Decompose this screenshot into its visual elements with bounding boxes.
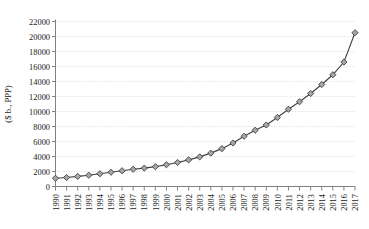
x-tick-label: 2006: [229, 194, 238, 211]
y-tick-label: 18000: [29, 48, 50, 57]
data-point-marker: [352, 30, 358, 36]
data-point-marker: [219, 146, 225, 152]
data-point-marker: [174, 159, 180, 165]
data-point-marker: [208, 150, 214, 156]
x-tick-label: 1994: [96, 193, 105, 211]
y-tick-label: 12000: [29, 93, 50, 102]
data-point-marker: [230, 140, 236, 146]
data-point-marker: [75, 173, 81, 179]
x-tick-label: 2003: [196, 194, 205, 211]
x-tick-label: 1990: [52, 194, 61, 211]
data-point-markers: [52, 30, 358, 182]
y-tick-label: 16000: [29, 63, 50, 72]
y-tick-label: 8000: [33, 123, 50, 132]
x-tick-label: 2017: [351, 194, 360, 211]
x-tick-label: 2005: [218, 194, 227, 211]
y-tick-label: 10000: [29, 108, 50, 117]
x-tick-label: 2008: [251, 194, 260, 211]
data-point-marker: [152, 164, 158, 170]
x-tick-label: 2010: [274, 194, 283, 211]
x-tick-label: 2014: [318, 193, 327, 211]
x-tick-label: 1997: [129, 194, 138, 211]
data-point-marker: [119, 168, 125, 174]
data-point-marker: [52, 175, 58, 181]
y-axis: [52, 20, 56, 187]
x-tick-label: 2000: [163, 194, 172, 211]
x-tick-label: 1999: [152, 194, 161, 211]
chart-container: 0200040006000800010000120001400016000180…: [0, 0, 369, 229]
x-tick-label: 2012: [296, 194, 305, 211]
y-tick-label: 22000: [29, 18, 50, 27]
x-tick-label: 1995: [107, 194, 116, 211]
x-tick-label: 1996: [118, 194, 127, 211]
y-tick-label: 0: [46, 183, 50, 192]
data-point-marker: [163, 162, 169, 168]
x-tick-label: 2007: [240, 194, 249, 211]
x-tick-label: 2002: [185, 194, 194, 211]
line-chart: 0200040006000800010000120001400016000180…: [0, 0, 369, 229]
x-tick-label: 1991: [63, 194, 72, 211]
y-tick-labels: 0200040006000800010000120001400016000180…: [29, 18, 50, 192]
x-tick-label: 2016: [340, 194, 349, 211]
data-point-marker: [197, 154, 203, 160]
data-point-marker: [86, 172, 92, 178]
y-tick-label: 6000: [33, 138, 50, 147]
data-point-marker: [241, 133, 247, 139]
data-point-marker: [108, 169, 114, 175]
x-tick-label: 1998: [140, 194, 149, 211]
x-tick-label: 1992: [74, 194, 83, 211]
data-point-marker: [63, 174, 69, 180]
x-tick-label: 1993: [85, 194, 94, 211]
x-tick-label: 2004: [207, 193, 216, 211]
x-tick-label: 2011: [285, 194, 294, 210]
data-point-marker: [186, 157, 192, 163]
y-tick-label: 2000: [33, 168, 50, 177]
y-tick-label: 20000: [29, 33, 50, 42]
x-tick-label: 2015: [329, 194, 338, 211]
y-tick-label: 4000: [33, 153, 50, 162]
data-point-marker: [263, 122, 269, 128]
x-tick-label: 2013: [307, 194, 316, 211]
data-point-marker: [252, 127, 258, 133]
y-axis-title-text: ($ b., PPP): [3, 85, 13, 122]
x-axis: [56, 187, 356, 191]
x-tick-label: 2001: [174, 194, 183, 211]
x-tick-label: 2009: [262, 194, 271, 211]
x-tick-labels: 1990199119921993199419951996199719981999…: [52, 193, 361, 211]
data-point-marker: [141, 165, 147, 171]
y-axis-title: ($ b., PPP): [3, 85, 13, 122]
y-tick-label: 14000: [29, 78, 50, 87]
